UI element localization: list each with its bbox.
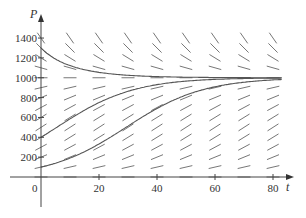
slope-segment	[93, 95, 105, 100]
y-axis-arrow-icon	[38, 14, 44, 22]
y-tick-label: 1200	[15, 52, 38, 64]
slope-segment	[180, 114, 191, 121]
slope-segment	[209, 134, 220, 141]
slope-segment	[151, 95, 163, 100]
slope-segment	[180, 95, 192, 100]
slope-segment	[122, 86, 135, 89]
slope-segment	[210, 43, 219, 52]
slope-segment	[267, 144, 278, 150]
slope-segment	[180, 155, 192, 160]
slope-segment	[122, 144, 133, 150]
slope-segment	[124, 33, 131, 44]
slope-segment	[151, 86, 164, 89]
slope-segment	[209, 166, 222, 169]
slope-segment	[238, 54, 249, 61]
slope-segment	[64, 166, 77, 169]
slope-segment	[267, 155, 279, 160]
slope-segment	[151, 155, 163, 160]
slope-segment	[93, 155, 105, 160]
x-tick-label: 40	[152, 182, 164, 194]
origin-label: 0	[32, 182, 38, 194]
slope-segment	[239, 124, 250, 131]
slope-segment	[66, 33, 73, 44]
slope-segment	[238, 144, 249, 150]
slope-segment	[94, 43, 103, 52]
slope-segment	[93, 86, 106, 89]
slope-segment	[95, 33, 102, 44]
slope-segment	[152, 124, 163, 131]
slope-segment	[123, 124, 134, 131]
slope-segment	[180, 104, 191, 110]
y-tick-label: 1000	[15, 72, 38, 84]
slope-segment	[181, 43, 190, 52]
slope-segment	[180, 66, 193, 70]
slope-segment	[122, 166, 135, 169]
slope-segment	[93, 66, 106, 70]
x-tick-label: 80	[268, 182, 280, 194]
slope-segment	[64, 144, 75, 150]
slope-segment	[64, 134, 75, 141]
slope-segment	[267, 86, 280, 89]
slope-segment	[93, 104, 104, 110]
slope-segment	[123, 43, 132, 52]
slope-segment	[122, 155, 134, 160]
slope-segment	[238, 114, 249, 121]
slope-segment	[180, 54, 191, 61]
slope-segment	[267, 134, 278, 141]
y-tick-label: 1400	[15, 32, 38, 44]
slope-segment	[64, 95, 76, 100]
slope-segment	[65, 124, 76, 131]
y-tick-label: 800	[21, 92, 38, 104]
slope-segment	[267, 66, 280, 70]
slope-segment	[65, 43, 74, 52]
slope-segment	[180, 144, 191, 150]
slope-segment	[238, 134, 249, 141]
slope-segment	[238, 166, 251, 169]
x-tick-label: 20	[94, 182, 106, 194]
slope-segment	[238, 86, 251, 89]
direction-field	[35, 33, 280, 177]
slope-segment	[209, 155, 221, 160]
slope-segment	[64, 114, 75, 121]
y-axis-label: P	[29, 7, 38, 21]
slope-segment	[240, 33, 247, 44]
slope-segment	[122, 66, 135, 70]
slope-segment	[93, 54, 104, 61]
slope-segment	[210, 124, 221, 131]
slope-segment	[153, 33, 160, 44]
slope-segment	[180, 134, 191, 141]
slope-segment	[182, 33, 189, 44]
slope-segment	[151, 134, 162, 141]
slope-segment	[180, 166, 193, 169]
slope-segment	[151, 66, 164, 70]
slope-segment	[238, 155, 250, 160]
x-tick-label: 60	[210, 182, 222, 194]
slope-segment	[238, 104, 249, 110]
y-tick-label: 400	[21, 131, 38, 143]
axes: t P 0 20406080 200400600800100012001400	[10, 7, 294, 207]
slope-segment	[209, 114, 220, 121]
slope-segment	[211, 33, 218, 44]
slope-segment	[64, 155, 76, 160]
slope-segment	[151, 144, 162, 150]
y-tick-label: 200	[21, 151, 38, 163]
slope-segment	[122, 54, 133, 61]
slope-segment	[122, 95, 134, 100]
slope-segment	[269, 33, 276, 44]
slope-segment	[181, 124, 192, 131]
y-tick-label: 600	[21, 111, 38, 123]
slope-segment	[238, 66, 251, 70]
slope-segment	[239, 43, 248, 52]
slope-segment	[151, 104, 162, 110]
slope-segment	[267, 104, 278, 110]
slope-segment	[209, 104, 220, 110]
slope-segment	[151, 54, 162, 61]
slope-segment	[151, 166, 164, 169]
slope-segment	[64, 86, 77, 89]
slope-segment	[152, 43, 161, 52]
slope-segment	[267, 95, 279, 100]
slope-segment	[209, 144, 220, 150]
slope-segment	[94, 124, 105, 131]
slope-segment	[151, 114, 162, 121]
slope-segment	[122, 114, 133, 121]
